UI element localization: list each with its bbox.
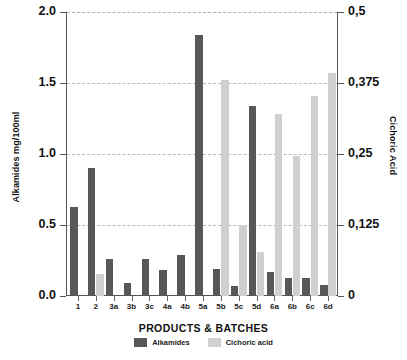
bar-group: [212, 12, 230, 296]
bar-alkamides: [231, 286, 238, 296]
y-axis-left-tick-label: 0.5: [39, 217, 56, 231]
legend-swatch-alkamides: [134, 338, 147, 347]
x-axis-tick: [96, 296, 97, 301]
y-axis-right-tick: [338, 225, 344, 226]
y-axis-left-tick-label: 1.0: [39, 146, 56, 160]
x-axis-tick: [239, 296, 240, 301]
y-axis-right-tick-label: 0: [348, 288, 355, 302]
y-axis-right-tick: [338, 154, 344, 155]
legend-label-cichoric-acid: Cichoric acid: [226, 338, 273, 347]
x-axis-tick: [78, 296, 79, 301]
bar-cichoric-acid: [328, 73, 335, 296]
bar-alkamides: [195, 35, 202, 296]
bar-cichoric-acid: [257, 252, 264, 296]
bars-container: [67, 12, 337, 296]
y-axis-left-tick: [60, 83, 66, 84]
x-axis-tick: [203, 296, 204, 301]
x-axis-tick: [167, 296, 168, 301]
x-axis-tick: [221, 296, 222, 301]
bar-alkamides: [142, 259, 149, 296]
bar-alkamides: [159, 270, 166, 296]
x-axis-tick: [274, 296, 275, 301]
y-axis-right-tick-label: 0,125: [348, 217, 379, 231]
chart-legend: Alkamides Cichoric acid: [0, 338, 407, 347]
bar-cichoric-acid: [221, 80, 228, 296]
x-axis-tick: [185, 296, 186, 301]
y-axis-right-tick: [338, 12, 344, 13]
bar-alkamides: [320, 285, 327, 296]
bar-cichoric-acid: [311, 96, 318, 296]
x-axis-tick: [328, 296, 329, 301]
bar-group: [87, 12, 105, 296]
bar-group: [319, 12, 337, 296]
bar-group: [283, 12, 301, 296]
bar-cichoric-acid: [239, 225, 246, 296]
bar-alkamides: [177, 255, 184, 296]
x-axis-tick-label: 6d: [316, 302, 340, 311]
y-axis-left-tick-label: 2.0: [39, 4, 56, 18]
y-axis-right-tick-label: 0,5: [348, 4, 365, 18]
bar-group: [69, 12, 87, 296]
bar-cichoric-acid: [293, 156, 300, 296]
chart-figure: Alkamides mg/100ml Cichoric Acid 0.00.51…: [0, 0, 407, 360]
bar-alkamides: [267, 272, 274, 296]
y-axis-right-tick: [338, 83, 344, 84]
bar-alkamides: [106, 259, 113, 296]
x-axis-title: PRODUCTS & BATCHES: [0, 322, 407, 334]
bar-group: [158, 12, 176, 296]
bar-group: [248, 12, 266, 296]
legend-item-cichoric-acid: Cichoric acid: [208, 338, 273, 347]
bar-group: [105, 12, 123, 296]
legend-label-alkamides: Alkamides: [152, 338, 190, 347]
y-axis-left-tick-label: 0.0: [39, 288, 56, 302]
bar-group: [194, 12, 212, 296]
x-axis-tick: [149, 296, 150, 301]
bar-alkamides: [249, 106, 256, 296]
bar-group: [123, 12, 141, 296]
y-axis-left-tick: [60, 296, 66, 297]
y-axis-right-tick-label: 0,25: [348, 146, 372, 160]
y-axis-left-tick: [60, 225, 66, 226]
bar-alkamides: [213, 269, 220, 296]
legend-item-alkamides: Alkamides: [134, 338, 190, 347]
y-axis-right-tick: [338, 296, 344, 297]
x-axis-tick: [132, 296, 133, 301]
bar-alkamides: [285, 278, 292, 296]
bar-alkamides: [70, 207, 77, 296]
y-axis-right-title: Cichoric Acid: [387, 106, 398, 186]
bar-cichoric-acid: [96, 274, 103, 296]
bar-group: [266, 12, 284, 296]
bar-group: [301, 12, 319, 296]
bar-group: [230, 12, 248, 296]
bar-cichoric-acid: [275, 114, 282, 296]
y-axis-left-tick: [60, 154, 66, 155]
bar-group: [140, 12, 158, 296]
x-axis-tick: [114, 296, 115, 301]
y-axis-left-tick-label: 1.5: [39, 75, 56, 89]
y-axis-left-title: Alkamides mg/100ml: [11, 97, 21, 217]
x-axis-tick: [292, 296, 293, 301]
bar-alkamides: [302, 278, 309, 296]
y-axis-right-tick-label: 0,375: [348, 75, 379, 89]
x-axis-tick: [310, 296, 311, 301]
y-axis-left-tick: [60, 12, 66, 13]
bar-alkamides: [88, 168, 95, 296]
bar-alkamides: [124, 283, 131, 296]
legend-swatch-cichoric-acid: [208, 338, 221, 347]
bar-group: [176, 12, 194, 296]
x-axis-tick: [257, 296, 258, 301]
